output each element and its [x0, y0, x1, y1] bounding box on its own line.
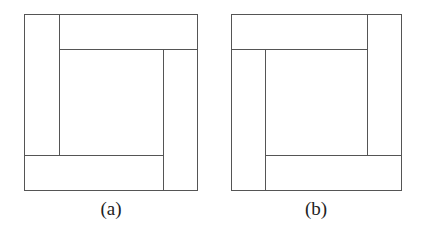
caption-a: (a) [81, 198, 141, 220]
bottom-strip-edge [265, 155, 402, 156]
outer-right [401, 14, 402, 191]
outer-top [24, 14, 198, 15]
outer-left [24, 14, 25, 191]
right-strip-edge [367, 14, 368, 156]
top-strip-edge [59, 49, 198, 50]
right-strip-edge [163, 49, 164, 191]
outer-bottom [24, 190, 198, 191]
bottom-strip-edge [24, 155, 164, 156]
outer-bottom [231, 190, 402, 191]
left-strip-edge [265, 49, 266, 191]
top-strip-edge [231, 49, 368, 50]
outer-right [197, 14, 198, 191]
outer-left [231, 14, 232, 191]
outer-top [231, 14, 402, 15]
left-strip-edge [59, 14, 60, 155]
caption-b: (b) [286, 198, 346, 220]
